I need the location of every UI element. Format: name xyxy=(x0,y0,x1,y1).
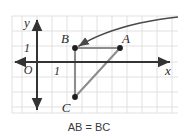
x-axis-label: x xyxy=(164,63,171,78)
origin-label: O xyxy=(24,63,33,77)
point-label-A: A xyxy=(121,31,130,46)
coordinate-figure: y x O 1 1 B A C AB = BC xyxy=(0,0,178,139)
figure-canvas: y x O 1 1 B A C AB = BC xyxy=(0,0,178,139)
y-tick-label-1: 1 xyxy=(24,41,30,55)
point-C xyxy=(72,94,78,100)
point-label-C: C xyxy=(62,100,71,115)
point-label-B: B xyxy=(61,31,69,46)
figure-caption: AB = BC xyxy=(68,121,111,133)
y-axis-label: y xyxy=(22,15,30,30)
x-tick-label-1: 1 xyxy=(54,64,60,78)
point-B xyxy=(72,45,78,51)
